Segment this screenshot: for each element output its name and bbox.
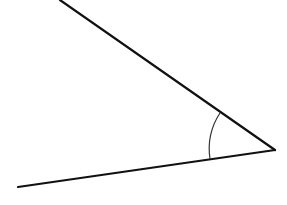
angle-diagram <box>0 0 287 205</box>
lower-ray <box>18 150 275 187</box>
angle-diagram-svg <box>0 0 287 205</box>
upper-ray <box>60 0 275 150</box>
angle-arc <box>209 113 220 159</box>
